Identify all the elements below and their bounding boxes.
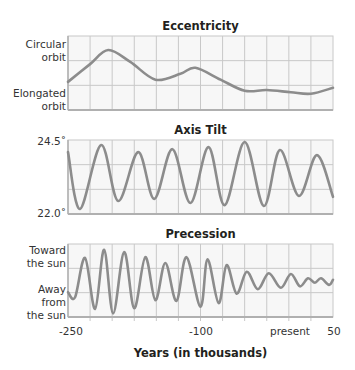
- x-axis-label: Years (in thousands): [68, 346, 333, 360]
- eccentricity-ylabel-elongated: Elongatedorbit: [13, 87, 66, 113]
- x-tick-50: 50: [327, 325, 340, 337]
- eccentricity-title: Eccentricity: [68, 19, 333, 33]
- eccentricity-ylabel-circular: Circularorbit: [26, 38, 66, 64]
- axis-tilt-title: Axis Tilt: [68, 123, 333, 137]
- precession-ylabel-away: Awayfromthe sun: [27, 283, 66, 322]
- precession-ylabel-toward: Towardthe sun: [27, 244, 66, 270]
- x-tick-minus-100: -100: [189, 325, 213, 337]
- tilt-ylabel-min: 22.0˚: [37, 207, 66, 220]
- axis-tilt-plot: [68, 140, 333, 214]
- precession-title: Precession: [68, 227, 333, 241]
- x-tick-present: present: [270, 325, 310, 337]
- x-tick-minus-250: -250: [59, 325, 83, 337]
- precession-plot: [68, 244, 333, 321]
- eccentricity-plot: [68, 36, 333, 110]
- tilt-ylabel-max: 24.5˚: [37, 135, 66, 148]
